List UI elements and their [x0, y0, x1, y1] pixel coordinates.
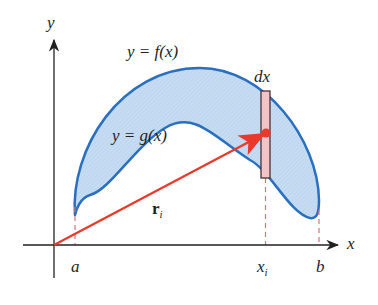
y-axis-label: y: [47, 14, 55, 31]
strip-x-symbol: x: [257, 257, 265, 276]
position-vector-label: ri: [152, 200, 163, 220]
position-vector-symbol: r: [152, 199, 160, 218]
x-axis-label: x: [347, 235, 355, 252]
upper-curve-label: y = f(x): [127, 43, 178, 60]
strip-width-label: dx: [254, 68, 270, 85]
right-bound-label: b: [316, 258, 325, 275]
left-bound-label: a: [71, 258, 80, 275]
position-vector-subscript: i: [160, 208, 163, 220]
strip-x-label: xi: [257, 258, 268, 278]
centroid-point: [262, 129, 271, 138]
strip-x-subscript: i: [265, 266, 268, 278]
lower-curve-label: y = g(x): [112, 127, 167, 144]
